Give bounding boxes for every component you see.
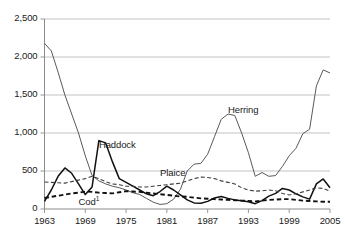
x-tick-label: 1993 xyxy=(226,215,270,226)
series-lines xyxy=(45,43,331,204)
x-tick-label: 1981 xyxy=(145,215,189,226)
y-tick-label: 0 xyxy=(32,202,37,213)
axes xyxy=(45,19,331,209)
x-tick-label: 1975 xyxy=(104,215,148,226)
y-tick-label: 2,500 xyxy=(14,12,37,23)
y-tick-label: 1,500 xyxy=(14,88,37,99)
y-tick-label: 2,000 xyxy=(14,50,37,61)
series-label-plaice: Plaice xyxy=(160,167,185,178)
y-tick-label: 500 xyxy=(22,164,38,175)
x-tick-label: 1963 xyxy=(23,215,67,226)
x-tick-label: 2005 xyxy=(308,215,345,226)
series-label-herring: Herring xyxy=(228,104,258,115)
series-line-herring xyxy=(45,43,331,204)
series-label-cod: Cod1 xyxy=(78,196,99,207)
y-tick-label: 1,000 xyxy=(14,126,37,137)
gridlines xyxy=(45,19,331,171)
series-label-superscript: 1 xyxy=(96,195,100,202)
tick-marks xyxy=(41,19,331,213)
x-tick-label: 1999 xyxy=(267,215,311,226)
series-label-haddock: Haddock xyxy=(99,139,136,150)
x-tick-label: 1969 xyxy=(63,215,107,226)
x-tick-label: 1987 xyxy=(186,215,230,226)
